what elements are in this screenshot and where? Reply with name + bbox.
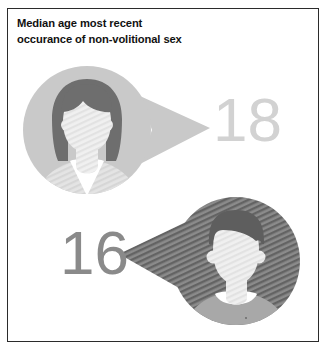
male-bubble-group xyxy=(119,197,300,336)
pictogram-svg xyxy=(0,0,333,357)
female-bubble-group xyxy=(23,66,210,200)
value-label-male: 16 xyxy=(60,222,129,284)
infographic-root: Median age most recent occurance of non-… xyxy=(0,0,333,357)
value-label-female: 18 xyxy=(213,89,282,151)
pictogram-stage xyxy=(0,0,333,357)
